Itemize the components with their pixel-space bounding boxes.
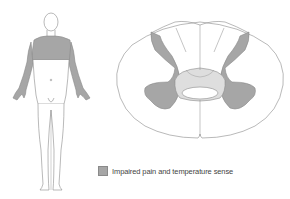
shaded-region-left-arm bbox=[13, 42, 33, 100]
legend: Impaired pain and temperature sense bbox=[98, 166, 233, 176]
legend-swatch bbox=[98, 166, 108, 176]
body-figure bbox=[13, 13, 90, 190]
shaded-region-chest bbox=[31, 36, 72, 60]
shaded-region-right-arm bbox=[69, 42, 90, 100]
legend-label: Impaired pain and temperature sense bbox=[112, 167, 233, 176]
spinal-cord-figure bbox=[117, 21, 284, 138]
